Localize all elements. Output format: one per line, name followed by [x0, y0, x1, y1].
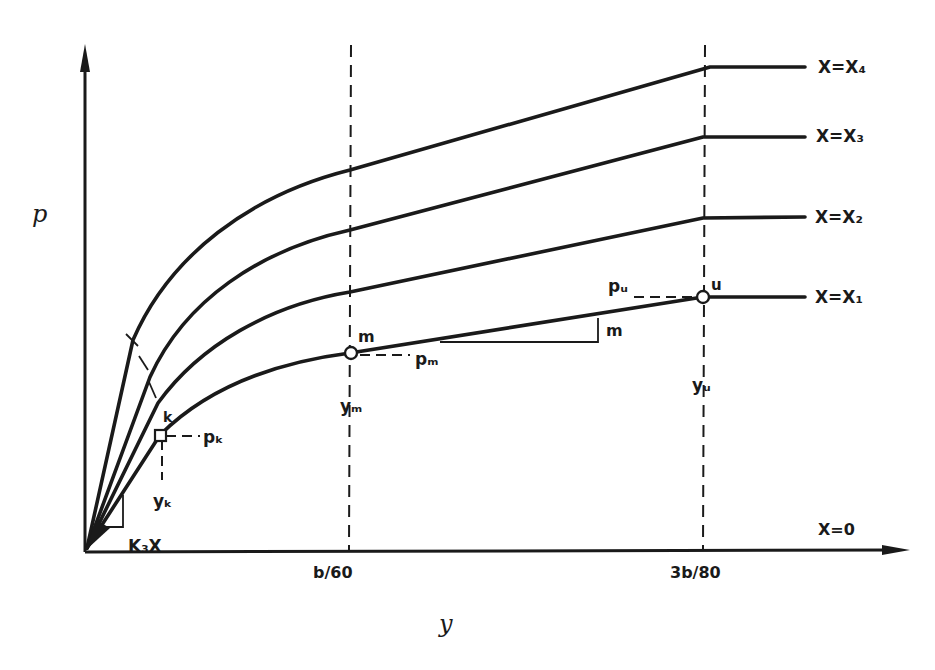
point-m-marker — [345, 347, 357, 359]
point-m-label: m — [358, 327, 375, 346]
initial-slope-label: K₃X — [128, 536, 162, 556]
ym-label: yₘ — [340, 396, 362, 416]
tick-3b-80: 3b/80 — [670, 563, 721, 582]
curve-x4-label: X=X₄ — [818, 57, 866, 77]
y-axis — [85, 550, 895, 552]
y-axis-arrow-icon — [882, 545, 910, 555]
point-u-label: u — [711, 276, 722, 294]
secant-slope-triangle — [440, 318, 598, 342]
p-axis-title: p — [32, 200, 47, 228]
pu-label: pᵤ — [608, 276, 628, 296]
p-axis-arrow-icon — [80, 44, 90, 72]
tick-b-60: b/60 — [313, 563, 353, 582]
baseline-x0-label: X=0 — [818, 520, 855, 539]
curve-x1 — [87, 297, 805, 548]
p-y-curves-diagram: K₃X k pₖ yₖ m pₘ yₘ m u pᵤ yᵤ X=X₄ X=X₃ … — [0, 0, 935, 670]
ym-dashed-line — [349, 45, 351, 550]
point-k-label: k — [163, 409, 173, 425]
point-k-marker — [155, 430, 166, 441]
yk-label: yₖ — [153, 491, 172, 511]
curve-x2-label: X=X₂ — [815, 207, 863, 227]
yu-label: yᵤ — [692, 375, 711, 395]
x3-transition-tick — [139, 356, 148, 370]
y-axis-title: y — [438, 610, 453, 638]
pm-label: pₘ — [415, 349, 438, 369]
x2-transition-tick — [149, 382, 156, 398]
curve-x3-label: X=X₃ — [816, 126, 864, 146]
pk-label: pₖ — [203, 427, 223, 447]
secant-slope-label: m — [606, 321, 623, 340]
curve-x1-label: X=X₁ — [815, 287, 863, 307]
point-u-marker — [697, 291, 709, 303]
